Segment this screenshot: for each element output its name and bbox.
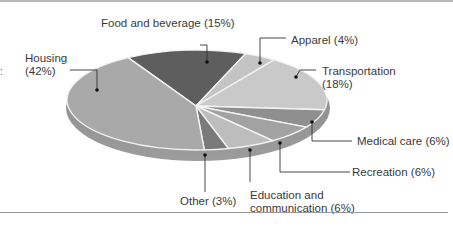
label-education-line1: Education and <box>250 189 355 202</box>
label-transportation-name: Transportation <box>322 65 396 78</box>
bottom-rule <box>0 212 448 213</box>
label-housing-name: Housing <box>25 52 67 65</box>
pie-chart <box>0 0 453 228</box>
label-food-and-beverage: Food and beverage (15%) <box>101 17 235 30</box>
label-education-line2: communication (6%) <box>250 202 355 215</box>
label-housing: Housing (42%) <box>25 52 67 78</box>
label-housing-value: (42%) <box>25 65 67 78</box>
pie-slices <box>67 50 327 150</box>
label-transportation-value: (18%) <box>322 78 396 91</box>
label-apparel: Apparel (4%) <box>291 34 358 47</box>
label-recreation: Recreation (6%) <box>352 166 435 179</box>
label-medical-care: Medical care (6%) <box>357 135 450 148</box>
label-transportation: Transportation (18%) <box>322 65 396 91</box>
label-other: Other (3%) <box>180 195 236 208</box>
